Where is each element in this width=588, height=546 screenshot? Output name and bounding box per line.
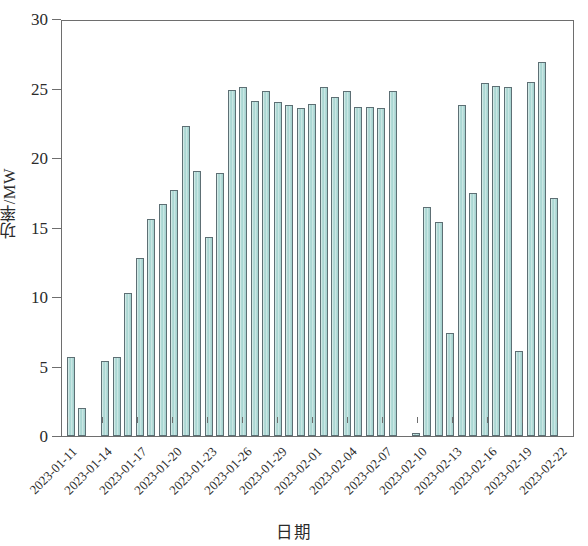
bar-slot [295, 21, 307, 436]
bar-slot [65, 21, 77, 436]
bar-slot [502, 21, 514, 436]
bar-slot [215, 21, 227, 436]
bar[interactable] [446, 333, 454, 436]
bar-slot [134, 21, 146, 436]
bar[interactable] [435, 222, 443, 436]
y-axis-tick-label: 5 [8, 359, 48, 376]
bar-slot [272, 21, 284, 436]
bar-slot [88, 21, 100, 436]
x-axis-tick [242, 417, 243, 423]
bar[interactable] [297, 108, 305, 436]
y-axis-tick [52, 436, 61, 437]
bar[interactable] [124, 293, 132, 436]
bar-slot [514, 21, 526, 436]
bar-slot [284, 21, 296, 436]
x-axis-tick [347, 417, 348, 423]
bar[interactable] [67, 357, 75, 436]
bar[interactable] [343, 91, 351, 436]
bar-slot [146, 21, 158, 436]
y-axis-tick-label: 20 [8, 150, 48, 167]
bar[interactable] [366, 107, 374, 436]
bar-slot [548, 21, 560, 436]
bar-slot [422, 21, 434, 436]
plot-area [61, 20, 574, 437]
x-axis-tick [417, 417, 418, 423]
bar[interactable] [550, 198, 558, 436]
x-axis-tick [102, 417, 103, 423]
bar-slot [410, 21, 422, 436]
x-axis-tick [207, 417, 208, 423]
bar-slot [157, 21, 169, 436]
bar[interactable] [492, 86, 500, 436]
bar[interactable] [515, 351, 523, 436]
bar-slot [249, 21, 261, 436]
bar-slot [353, 21, 365, 436]
bar-slot [100, 21, 112, 436]
bar[interactable] [251, 101, 259, 436]
bar[interactable] [469, 193, 477, 436]
bar-slot [445, 21, 457, 436]
bar-slot [491, 21, 503, 436]
x-axis-tick [172, 417, 173, 423]
bar-slot [307, 21, 319, 436]
y-axis-tick-label: 25 [8, 81, 48, 98]
bar[interactable] [193, 171, 201, 436]
bar[interactable] [320, 87, 328, 436]
bar[interactable] [159, 204, 167, 436]
bar[interactable] [113, 357, 121, 436]
bar[interactable] [389, 91, 397, 436]
bar[interactable] [331, 97, 339, 436]
bar-slot [399, 21, 411, 436]
bar[interactable] [377, 108, 385, 436]
y-axis-tick-label: 30 [8, 11, 48, 28]
bar[interactable] [262, 91, 270, 436]
bar[interactable] [228, 90, 236, 436]
y-axis-tick [52, 367, 61, 368]
bar[interactable] [136, 258, 144, 436]
bar[interactable] [458, 105, 466, 436]
bar-chart-figure: 051015202530 2023-01-112023-01-142023-01… [0, 0, 588, 546]
bar-slot [111, 21, 123, 436]
bar[interactable] [182, 126, 190, 436]
bar[interactable] [170, 190, 178, 436]
bar[interactable] [285, 105, 293, 436]
bar[interactable] [527, 82, 535, 436]
bar[interactable] [423, 207, 431, 436]
bar[interactable] [78, 408, 86, 436]
bar[interactable] [354, 107, 362, 436]
y-axis-tick [52, 89, 61, 90]
bar[interactable] [538, 62, 546, 436]
y-axis-tick [52, 297, 61, 298]
bar-slot [238, 21, 250, 436]
y-axis-tick [52, 158, 61, 159]
bar[interactable] [205, 237, 213, 436]
y-axis-tick-label: 10 [8, 289, 48, 306]
bar-slot [387, 21, 399, 436]
bar[interactable] [101, 361, 109, 436]
bar-slot [318, 21, 330, 436]
x-axis-tick [137, 417, 138, 423]
bar-slot [468, 21, 480, 436]
x-axis-tick [67, 417, 68, 423]
bar-slot [192, 21, 204, 436]
x-axis-tick [382, 417, 383, 423]
bar[interactable] [216, 173, 224, 436]
x-axis-tick [312, 417, 313, 423]
bar[interactable] [504, 87, 512, 436]
x-axis-title: 日期 [0, 519, 588, 543]
x-axis-tick [452, 417, 453, 423]
y-axis-title: 功率/MW [0, 168, 22, 239]
bar-slot [376, 21, 388, 436]
bar-slot [77, 21, 89, 436]
bar-slot [226, 21, 238, 436]
bar-slot [479, 21, 491, 436]
bar-slot [203, 21, 215, 436]
bar[interactable] [308, 104, 316, 436]
bar[interactable] [147, 219, 155, 436]
bar[interactable] [481, 83, 489, 436]
bar-slot [456, 21, 468, 436]
bar[interactable] [412, 433, 420, 436]
bar[interactable] [239, 87, 247, 436]
x-axis-tick [557, 417, 558, 423]
bar[interactable] [274, 102, 282, 436]
